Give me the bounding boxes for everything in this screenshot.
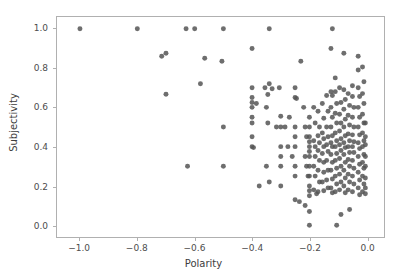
data-point: [333, 75, 338, 80]
data-point: [274, 125, 279, 130]
data-point: [330, 26, 335, 31]
data-point: [333, 130, 338, 135]
data-point: [334, 223, 339, 228]
data-point: [270, 86, 275, 91]
data-point: [347, 164, 352, 169]
data-point: [320, 130, 325, 135]
data-point: [307, 193, 312, 198]
x-tick-label: −0.2: [290, 242, 330, 254]
data-point: [321, 170, 326, 175]
data-point: [347, 123, 352, 128]
data-point: [350, 115, 355, 120]
data-point: [356, 85, 361, 90]
data-point: [356, 68, 361, 73]
data-point: [264, 164, 269, 169]
data-point: [337, 172, 342, 177]
data-point: [324, 93, 329, 98]
y-tick-label: 0.6: [18, 102, 48, 112]
data-point: [334, 101, 339, 106]
data-point: [363, 164, 368, 169]
data-point: [324, 178, 329, 183]
data-point: [341, 183, 346, 188]
data-point: [337, 156, 342, 161]
x-tick-mark: [195, 238, 196, 241]
data-point: [334, 166, 339, 171]
y-axis-label: Subjectivity: [8, 63, 19, 183]
data-point: [351, 181, 356, 186]
data-point: [360, 112, 365, 117]
data-point: [202, 56, 207, 61]
data-point: [287, 115, 292, 120]
data-point: [293, 164, 298, 169]
scatter-plot-figure: −1.0−0.8−0.6−0.4−0.20.0 0.00.20.40.60.81…: [0, 0, 407, 279]
data-point: [347, 138, 352, 143]
data-point: [347, 207, 352, 212]
data-point: [321, 116, 326, 121]
data-point: [363, 191, 368, 196]
data-point: [311, 164, 316, 169]
y-tick-label: 1.0: [18, 23, 48, 33]
data-point: [317, 125, 322, 130]
x-tick-mark: [252, 238, 253, 241]
data-point: [338, 212, 343, 217]
data-point: [324, 142, 329, 147]
y-tick-label: 0.4: [18, 142, 48, 152]
data-point: [307, 154, 312, 159]
data-point: [346, 144, 351, 149]
data-point: [328, 152, 333, 157]
data-point: [77, 26, 82, 31]
y-tick-label: 0.0: [18, 221, 48, 231]
data-point: [313, 174, 318, 179]
data-point: [341, 87, 346, 92]
data-point: [278, 114, 283, 119]
x-tick-mark: [79, 238, 80, 241]
data-point: [277, 85, 282, 90]
data-point: [317, 140, 322, 145]
data-point: [350, 94, 355, 99]
data-point: [356, 185, 361, 190]
data-point: [363, 121, 368, 126]
data-point: [346, 91, 351, 96]
data-point: [298, 59, 303, 64]
data-point: [351, 125, 356, 130]
data-point: [313, 154, 318, 159]
data-point: [250, 121, 255, 126]
data-point: [192, 26, 197, 31]
data-point: [350, 158, 355, 163]
data-point: [278, 164, 283, 169]
data-point: [333, 111, 338, 116]
data-point: [346, 157, 351, 162]
data-point: [311, 105, 316, 110]
data-point: [251, 145, 256, 150]
data-point: [278, 154, 283, 159]
data-point: [307, 125, 312, 130]
data-point: [221, 164, 226, 169]
data-point: [267, 81, 272, 86]
data-point: [360, 65, 365, 70]
x-tick-label: −0.4: [232, 242, 272, 254]
data-point: [283, 125, 288, 130]
data-point: [337, 112, 342, 117]
data-point: [328, 185, 333, 190]
data-point: [356, 54, 361, 59]
data-point: [337, 142, 342, 147]
data-point: [361, 101, 366, 106]
data-point: [356, 105, 361, 110]
data-point: [328, 125, 333, 130]
data-point: [257, 183, 262, 188]
data-point: [347, 103, 352, 108]
data-point: [307, 188, 312, 193]
data-point: [293, 197, 298, 202]
data-point: [316, 189, 321, 194]
data-point: [363, 134, 368, 139]
x-tick-mark: [368, 238, 369, 241]
data-point: [317, 158, 322, 163]
data-point: [333, 89, 338, 94]
data-point: [307, 134, 312, 139]
data-point: [185, 164, 190, 169]
data-point: [356, 154, 361, 159]
data-point: [347, 150, 352, 155]
data-point: [356, 140, 361, 145]
data-point: [164, 51, 169, 56]
data-point: [293, 85, 298, 90]
